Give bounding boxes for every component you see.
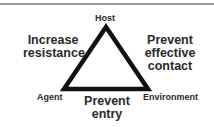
side-right-line-3: contact [140, 60, 200, 73]
side-left-label: Increase resistance [23, 34, 83, 60]
vertex-environment-label: Environment [143, 92, 198, 102]
side-bottom-label: Prevent entry [80, 95, 134, 121]
vertex-agent-label: Agent [37, 92, 63, 102]
side-left-line-2: resistance [23, 47, 83, 60]
side-bottom-line-2: entry [80, 108, 134, 121]
side-right-label: Prevent effective contact [140, 34, 200, 73]
vertex-host-label: Host [95, 13, 115, 23]
